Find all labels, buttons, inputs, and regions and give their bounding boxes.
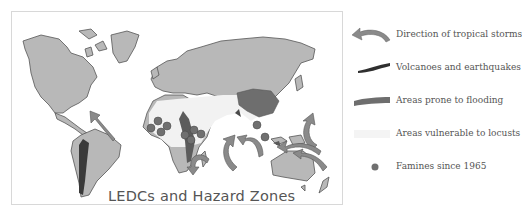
map-frame: LEDCs and Hazard Zones: [11, 11, 343, 205]
famine-dot-icon: [350, 158, 392, 176]
legend-item-famines: Famines since 1965: [344, 158, 513, 178]
world-map: [12, 12, 342, 204]
legend-item-storms: Direction of tropical storms: [344, 26, 513, 46]
legend-label: Volcanoes and earthquakes: [396, 62, 521, 72]
storm-arrow-arabian: [223, 135, 237, 171]
legend-item-locusts: Areas vulnerable to locusts: [344, 125, 513, 145]
locust-band-icon: [350, 125, 392, 143]
legend-label: Areas vulnerable to locusts: [396, 128, 520, 138]
volcano-band-icon: [350, 59, 392, 77]
legend-label: Direction of tropical storms: [396, 29, 522, 39]
legend-label: Famines since 1965: [396, 161, 486, 171]
storm-arrow-icon: [350, 26, 392, 44]
legend-item-flooding: Areas prone to flooding: [344, 92, 513, 112]
legend-item-volcanoes: Volcanoes and earthquakes: [344, 59, 513, 79]
storm-arrow-bay-bengal: [237, 135, 263, 157]
storm-arrow-pacific-1: [303, 113, 317, 149]
flood-band-icon: [350, 92, 392, 110]
north-america: [23, 35, 97, 113]
map-title: LEDCs and Hazard Zones: [108, 188, 295, 204]
legend-label: Areas prone to flooding: [396, 95, 503, 105]
